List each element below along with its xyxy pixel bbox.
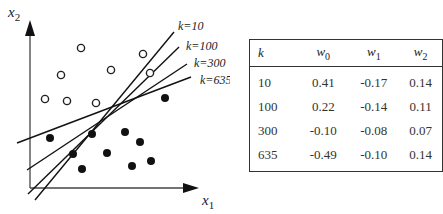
decision-line	[28, 47, 179, 194]
col-header-k: k	[250, 40, 299, 67]
table-row: 10 0.41 -0.17 0.14	[250, 67, 443, 96]
cell-k: 635	[250, 143, 299, 172]
open-point	[63, 97, 70, 104]
x-axis-arrow-icon	[183, 183, 199, 193]
filled-point	[103, 149, 111, 157]
decision-line	[17, 77, 191, 143]
line-label: k=10	[178, 19, 203, 33]
x-axis-label: x1	[201, 192, 214, 211]
decision-line	[35, 32, 174, 200]
data-points	[41, 44, 169, 173]
filled-point	[136, 138, 144, 146]
open-point	[139, 50, 146, 57]
open-point	[107, 66, 114, 73]
cell-w1: -0.10	[349, 143, 400, 172]
cell-w0: 0.22	[298, 95, 349, 119]
cell-w2: 0.14	[399, 143, 442, 172]
filled-point	[147, 157, 155, 165]
open-point	[92, 99, 99, 106]
cell-w1: -0.14	[349, 95, 400, 119]
table-row: 300 -0.10 -0.08 0.07	[250, 119, 443, 143]
y-axis-label: x2	[7, 4, 20, 23]
filled-point	[46, 134, 54, 142]
col-header-w1: w1	[349, 40, 400, 67]
filled-point	[161, 94, 169, 102]
table-row: 635 -0.49 -0.10 0.14	[250, 143, 443, 172]
cell-k: 100	[250, 95, 299, 119]
filled-point	[78, 165, 86, 173]
filled-point	[88, 130, 96, 138]
y-axis-arrow-icon	[25, 20, 35, 36]
line-labels: k=10k=100k=300k=635	[178, 19, 230, 87]
filled-point	[128, 162, 136, 170]
cell-w0: -0.10	[298, 119, 349, 143]
cell-w2: 0.07	[399, 119, 442, 143]
line-label: k=300	[194, 56, 225, 70]
table-row: 100 0.22 -0.14 0.11	[250, 95, 443, 119]
line-label: k=100	[186, 39, 217, 53]
decision-lines	[17, 32, 191, 200]
weights-table: k w0 w1 w2 10 0.41 -0.17 0.14 100 0.22 -…	[249, 39, 443, 172]
cell-w1: -0.08	[349, 119, 400, 143]
cell-w2: 0.11	[399, 95, 442, 119]
filled-point	[69, 150, 77, 158]
table-header-row: k w0 w1 w2	[250, 40, 443, 67]
line-label: k=635	[200, 73, 230, 87]
col-header-w0: w0	[298, 40, 349, 67]
cell-w2: 0.14	[399, 67, 442, 96]
open-point	[146, 69, 153, 76]
open-point	[41, 95, 48, 102]
scatter-diagram: x2 x1 k=10k=100k=300k=635	[0, 0, 230, 214]
open-point	[77, 44, 84, 51]
cell-k: 300	[250, 119, 299, 143]
filled-point	[121, 128, 129, 136]
open-point	[57, 71, 64, 78]
cell-w1: -0.17	[349, 67, 400, 96]
col-header-w2: w2	[399, 40, 442, 67]
cell-k: 10	[250, 67, 299, 96]
cell-w0: -0.49	[298, 143, 349, 172]
cell-w0: 0.41	[298, 67, 349, 96]
